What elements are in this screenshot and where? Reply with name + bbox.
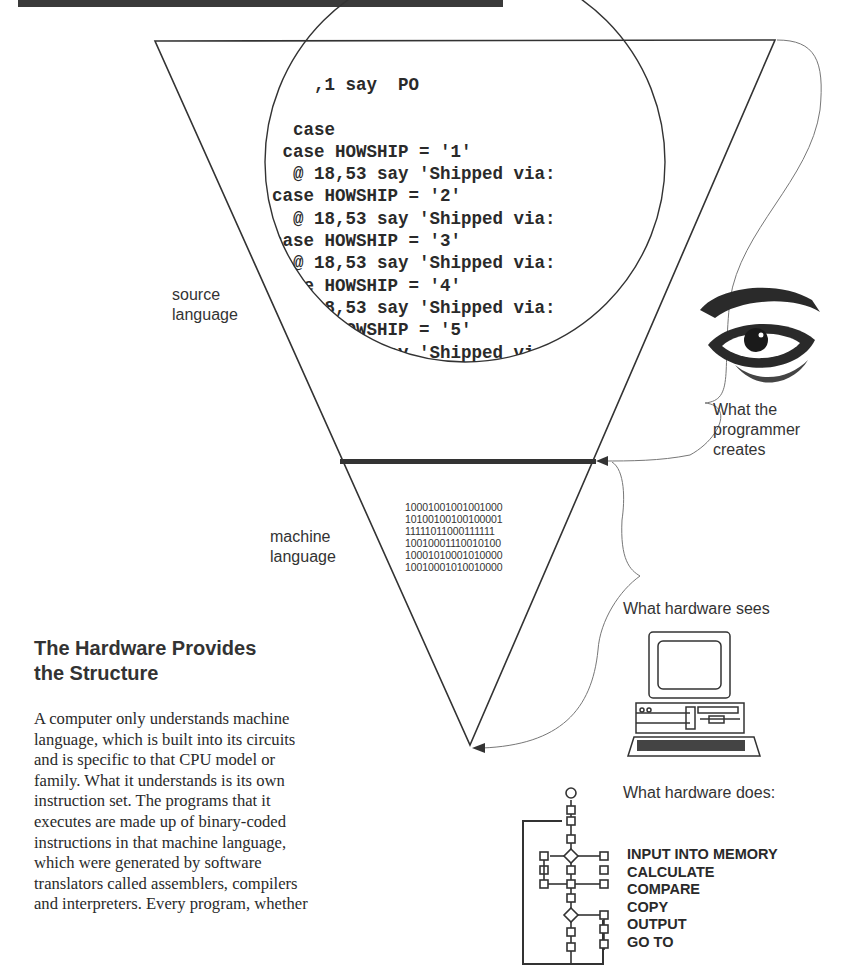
machine-language-label: machine language xyxy=(270,527,336,567)
hardware-operations-list: INPUT INTO MEMORY CALCULATE COMPARE COPY… xyxy=(627,846,778,951)
source-code-block: ,1 say PO case case HOWSHIP = '1' @ 18,5… xyxy=(272,74,556,362)
operation-item: COMPARE xyxy=(627,881,778,899)
operation-item: COPY xyxy=(627,899,778,917)
operation-item: GO TO xyxy=(627,934,778,952)
hardware-sees-caption: What hardware sees xyxy=(623,599,770,619)
arrow-head-divider xyxy=(596,456,608,466)
flowchart-icon xyxy=(523,788,608,964)
programmer-creates-caption: What the programmer creates xyxy=(713,400,800,460)
body-paragraph: A computer only understands machine lang… xyxy=(34,709,434,915)
operation-item: INPUT INTO MEMORY xyxy=(627,846,778,864)
machine-code-binary: 10001001001001000 10100100100100001 1111… xyxy=(405,501,503,573)
operation-item: OUTPUT xyxy=(627,916,778,934)
section-heading: The Hardware Provides the Structure xyxy=(34,636,256,686)
computer-icon xyxy=(628,632,760,756)
operation-item: CALCULATE xyxy=(627,864,778,882)
language-divider-bar xyxy=(340,459,596,464)
eye-icon xyxy=(700,288,820,383)
machine-brace xyxy=(482,462,640,748)
arrow-head-apex xyxy=(472,743,485,753)
hardware-does-caption: What hardware does: xyxy=(623,783,775,803)
source-language-label: source language xyxy=(172,285,238,325)
